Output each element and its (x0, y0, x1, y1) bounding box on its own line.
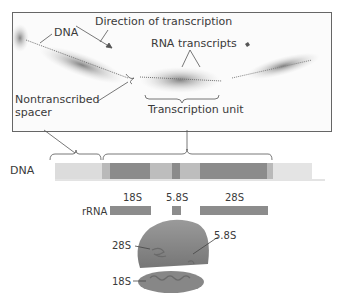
label-ribosome-5-8s: 5.8S (214, 230, 236, 241)
label-ribosome-28s: 28S (112, 240, 131, 251)
label-18s: 18S (123, 192, 142, 203)
label-ribosome-18s: 18S (112, 276, 131, 287)
label-spacer: spacer (15, 107, 52, 119)
rrna-bars (110, 206, 268, 215)
label-28s: 28S (225, 192, 244, 203)
label-rna-transcripts: RNA transcripts (151, 38, 237, 50)
label-dna-photo: DNA (54, 27, 78, 39)
label-direction-of-transcription: Direction of transcription (95, 16, 232, 28)
ribosome-illustration (133, 220, 218, 293)
label-rrna: rRNA (82, 206, 107, 217)
label-dna-map: DNA (10, 165, 34, 177)
label-5-8s: 5.8S (166, 192, 188, 203)
dna-bar (55, 163, 325, 180)
label-transcription-unit: Transcription unit (148, 104, 244, 116)
label-nontranscribed: Nontranscribed (15, 94, 100, 106)
